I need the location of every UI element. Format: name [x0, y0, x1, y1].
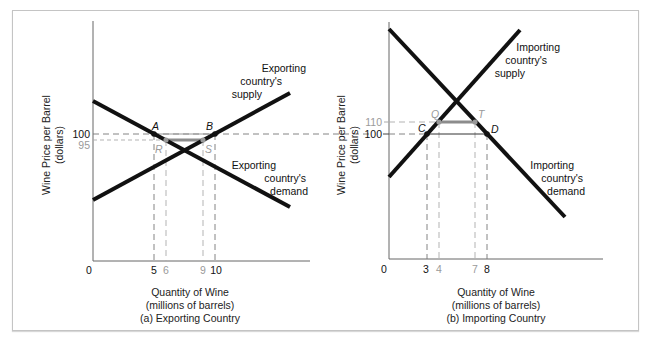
x-axis-subtitle: (millions of barrels)	[452, 299, 541, 311]
svg-text:Wine Price per Barrel: Wine Price per Barrel	[40, 95, 52, 195]
supply-label-line3: supply	[495, 67, 526, 79]
point-s	[200, 137, 205, 142]
point-t	[472, 119, 477, 124]
point-q	[436, 119, 441, 124]
y-tick-100: 100	[364, 128, 382, 140]
x-tick-9: 9	[200, 264, 206, 276]
label-t: T	[478, 108, 486, 120]
x-tick-7: 7	[472, 263, 478, 275]
label-s: S	[205, 143, 212, 155]
supply-label-line2: country's	[240, 75, 282, 87]
panel-title: (b) Importing Country	[446, 312, 546, 324]
exporting-demand-curve	[93, 101, 290, 207]
supply-label-line1: Importing	[516, 41, 560, 53]
x-tick-4: 4	[436, 263, 442, 275]
y-tick-110: 110	[365, 116, 382, 128]
supply-label-line1: Exporting	[262, 62, 307, 74]
x-tick-5: 5	[151, 264, 157, 276]
label-b: B	[206, 120, 213, 132]
y-axis-title: Wine Price per Barrel (dollars)	[335, 95, 360, 195]
x-tick-10: 10	[210, 264, 222, 276]
svg-text:(dollars): (dollars)	[348, 126, 360, 164]
label-d: D	[491, 123, 499, 135]
x-tick-6: 6	[163, 264, 169, 276]
point-a	[151, 131, 157, 137]
x-tick-0: 0	[381, 263, 387, 275]
panel-importing-country: C D Q T 110 100 0 3 4 7 8 Importing coun…	[335, 22, 603, 324]
exporting-supply-curve	[93, 93, 290, 200]
demand-label-line1: Importing	[530, 159, 574, 171]
demand-label-line3: demand	[270, 185, 308, 197]
label-a: A	[151, 120, 159, 132]
x-axis-subtitle: (millions of barrels)	[146, 299, 235, 311]
demand-label-line2: country's	[541, 172, 583, 184]
point-b	[212, 131, 218, 137]
label-c: C	[418, 122, 426, 134]
label-r: R	[155, 143, 163, 155]
x-tick-3: 3	[423, 263, 429, 275]
svg-text:Wine Price per Barrel: Wine Price per Barrel	[335, 95, 347, 195]
x-tick-8: 8	[484, 263, 490, 275]
supply-label-line3: supply	[232, 88, 263, 100]
x-axis-title: Quantity of Wine	[457, 286, 535, 298]
label-q: Q	[431, 108, 439, 120]
demand-label-line3: demand	[547, 185, 585, 197]
y-axis-title: Wine Price per Barrel (dollars)	[40, 95, 65, 195]
demand-label-line1: Exporting	[232, 159, 277, 171]
x-axis-title: Quantity of Wine	[151, 286, 229, 298]
chart-canvas: A B R S 100 95 0 5 6 9 10 Exporting coun…	[0, 0, 648, 341]
point-r	[163, 137, 168, 142]
demand-label-line2: country's	[264, 172, 306, 184]
supply-label-line2: country's	[505, 54, 547, 66]
panel-title: (a) Exporting Country	[140, 312, 241, 324]
panel-exporting-country: A B R S 100 95 0 5 6 9 10 Exporting coun…	[40, 21, 372, 324]
point-d	[484, 131, 490, 137]
x-tick-0: 0	[86, 264, 92, 276]
y-tick-95: 95	[78, 139, 90, 151]
svg-text:(dollars): (dollars)	[53, 126, 65, 164]
